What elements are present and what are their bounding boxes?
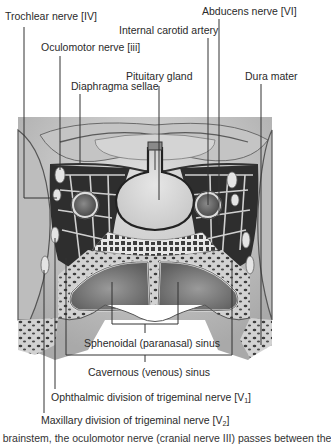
label-diaphragma-sellae: Diaphragma sellae bbox=[71, 80, 159, 92]
label-dura-mater: Dura mater bbox=[245, 70, 298, 82]
label-ophthalmic-division: Ophthalmic division of trigeminal nerve … bbox=[51, 391, 251, 407]
caption-fragment: e brainstem, the oculomotor nerve (crani… bbox=[0, 432, 331, 444]
label-sphenoidal-sinus: Sphenoidal (paranasal) sinus bbox=[84, 337, 220, 349]
label-internal-carotid-artery: Internal carotid artery bbox=[119, 24, 218, 36]
maxillary-close: ] bbox=[226, 414, 229, 426]
label-cavernous-sinus: Cavernous (venous) sinus bbox=[88, 366, 210, 378]
label-trochlear-nerve: Trochlear nerve [IV] bbox=[5, 10, 97, 22]
ophthalmic-text: Ophthalmic division of trigeminal nerve … bbox=[51, 391, 244, 403]
ophthalmic-close: ] bbox=[248, 391, 251, 403]
label-oculomotor-nerve: Oculomotor nerve [iii] bbox=[41, 41, 140, 53]
maxillary-text: Maxillary division of trigeminal nerve [… bbox=[41, 414, 222, 426]
label-abducens-nerve: Abducens nerve [VI] bbox=[202, 5, 297, 17]
label-maxillary-division: Maxillary division of trigeminal nerve [… bbox=[41, 414, 229, 430]
